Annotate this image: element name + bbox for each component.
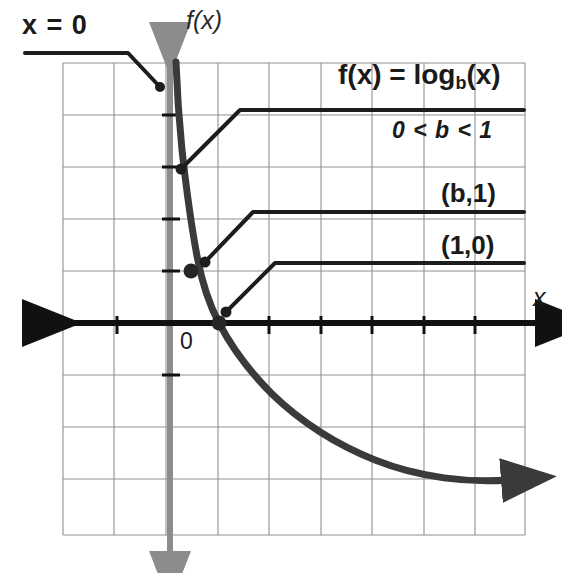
base-condition-label: 0 < b < 1	[392, 119, 493, 142]
formula-tail-text: (x)	[466, 59, 500, 90]
formula-main-text: f(x) = log	[338, 59, 455, 90]
leader-line-asymptote	[25, 53, 165, 92]
function-formula-label: f(x) = logb(x)	[338, 61, 501, 89]
asymptote-label: x = 0	[22, 12, 88, 39]
point-b-1-marker	[184, 264, 199, 279]
point-1-0-marker	[212, 316, 227, 331]
point-b1-label: (b,1)	[441, 180, 496, 206]
origin-label: 0	[180, 330, 193, 353]
logarithm-graph-figure: x = 0 f(x) x 0 f(x) = logb(x) 0 < b < 1 …	[0, 0, 562, 573]
point-10-label: (1,0)	[441, 232, 494, 258]
y-axis-label: f(x)	[186, 8, 222, 33]
formula-base-subscript: b	[455, 73, 466, 93]
x-axis-label: x	[533, 285, 546, 310]
